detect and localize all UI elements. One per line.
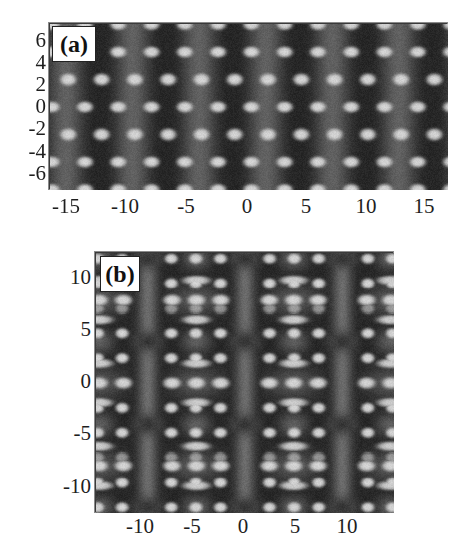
- y-tick-label: 0: [51, 371, 91, 392]
- x-tick-label: 10: [346, 196, 386, 217]
- y-tick-label: -2: [6, 118, 46, 139]
- y-tick-label: -5: [51, 423, 91, 444]
- x-tick-label: 0: [227, 196, 267, 217]
- x-tick-label: 10: [327, 516, 367, 537]
- y-tick-label: 0: [6, 96, 46, 117]
- x-tick-label: 0: [223, 516, 263, 537]
- x-tick-label: 5: [275, 516, 315, 537]
- plot-frame-a: (a): [48, 22, 448, 190]
- heatmap-a: [50, 24, 448, 190]
- y-tick-label: 6: [6, 30, 46, 51]
- y-tick-label: 10: [51, 267, 91, 288]
- x-tick-label: -15: [46, 196, 86, 217]
- heatmap-b: [96, 253, 394, 513]
- plot-frame-b: (b): [94, 251, 394, 513]
- y-tick-label: 4: [6, 52, 46, 73]
- x-tick-label: -5: [172, 516, 212, 537]
- y-tick-label: 2: [6, 74, 46, 95]
- y-tick-label: 5: [51, 319, 91, 340]
- panel-label-b: (b): [100, 256, 140, 292]
- y-tick-label: -10: [51, 476, 91, 497]
- x-tick-label: 5: [286, 196, 326, 217]
- panel-label-a: (a): [52, 26, 96, 62]
- x-tick-label: -10: [120, 516, 160, 537]
- y-tick-label: -6: [6, 163, 46, 184]
- x-tick-label: -10: [105, 196, 145, 217]
- x-tick-label: -5: [166, 196, 206, 217]
- x-tick-label: 15: [404, 196, 444, 217]
- y-tick-label: -4: [6, 141, 46, 162]
